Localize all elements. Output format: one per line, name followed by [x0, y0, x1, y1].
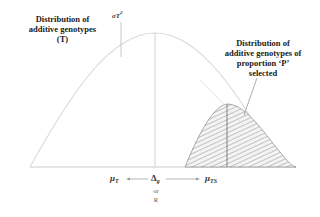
mu-ts-label: μTS	[205, 173, 217, 184]
sigma-text: σT	[112, 12, 120, 20]
label-line: (T)	[20, 34, 105, 44]
delta-g-label: Δg	[151, 173, 160, 184]
label-line: selected	[213, 68, 313, 78]
label-line: additive genotypes of	[213, 48, 313, 58]
mu-sub: TS	[210, 178, 217, 184]
total-distribution-label: Distribution of additive genotypes (T)	[20, 14, 105, 44]
label-line: additive genotypes	[20, 24, 105, 34]
selected-distribution-label: Distribution of additive genotypes of pr…	[213, 38, 313, 78]
delta-sub: g	[157, 178, 160, 184]
label-line: Distribution of	[20, 14, 105, 24]
mu-sub: T	[115, 178, 119, 184]
label-line: Distribution of	[213, 38, 313, 48]
mu-t-label: μT	[110, 173, 119, 184]
selected-label-pointer	[244, 78, 257, 115]
or-label: or	[150, 187, 162, 195]
r-label: R	[150, 196, 162, 204]
label-line: proportion ‘P’	[213, 58, 313, 68]
variance-symbol: σT2	[112, 10, 123, 20]
sigma-exp: 2	[120, 10, 123, 15]
